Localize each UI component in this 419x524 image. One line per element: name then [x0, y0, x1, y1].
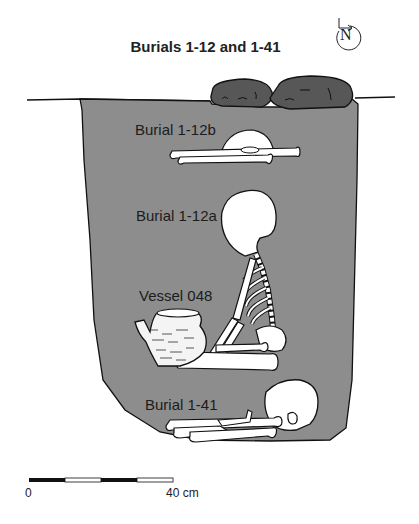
rock-left	[211, 79, 272, 107]
figure-title: Burials 1-12 and 1-41	[0, 38, 419, 55]
scale-end-label: 40 cm	[166, 486, 199, 500]
rock-right	[270, 76, 353, 109]
label-burial-1-12a: Burial 1-12a	[136, 207, 217, 224]
label-burial-1-41: Burial 1-41	[145, 396, 218, 413]
scale-bar	[29, 478, 173, 482]
burial-profile-drawing	[0, 0, 419, 524]
north-arrow-label: N	[340, 26, 352, 44]
scale-start-label: 0	[25, 486, 32, 500]
label-burial-1-12b: Burial 1-12b	[135, 121, 216, 138]
label-vessel-048: Vessel 048	[139, 287, 212, 304]
